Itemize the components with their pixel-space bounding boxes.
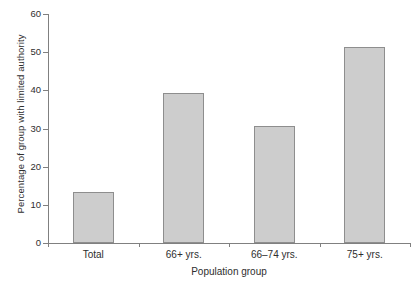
bar — [344, 47, 385, 243]
y-tick-label: 40 — [1, 85, 41, 95]
bar-chart: Percentage of group with limited authori… — [0, 0, 420, 288]
bar — [163, 93, 204, 243]
x-axis-title: Population group — [48, 266, 410, 277]
y-tick-mark — [43, 52, 48, 53]
x-tick-mark — [229, 243, 230, 247]
x-category-label: 75+ yrs. — [310, 249, 420, 260]
y-tick-mark — [43, 14, 48, 15]
bar — [73, 192, 114, 243]
y-tick-label: 0 — [1, 238, 41, 248]
y-axis-line — [48, 14, 49, 244]
x-tick-mark — [139, 243, 140, 247]
bar — [254, 126, 295, 243]
y-tick-label: 10 — [1, 200, 41, 210]
x-tick-mark — [410, 243, 411, 247]
y-tick-mark — [43, 205, 48, 206]
x-tick-mark — [48, 243, 49, 247]
x-tick-mark — [320, 243, 321, 247]
y-tick-label: 50 — [1, 47, 41, 57]
y-tick-label: 20 — [1, 162, 41, 172]
y-tick-label: 30 — [1, 124, 41, 134]
y-tick-mark — [43, 129, 48, 130]
y-tick-mark — [43, 90, 48, 91]
y-tick-mark — [43, 167, 48, 168]
y-tick-label: 60 — [1, 9, 41, 19]
